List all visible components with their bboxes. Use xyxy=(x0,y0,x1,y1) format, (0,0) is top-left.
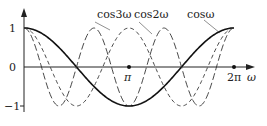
x-label-pi: π xyxy=(123,71,132,84)
x-label-2pi: 2π xyxy=(227,71,241,84)
label-cos1: cosω xyxy=(187,8,214,21)
x-axis-arrow-icon xyxy=(246,64,255,70)
label-cos3: cos3ω xyxy=(97,8,131,21)
leader-cos3 xyxy=(95,22,110,30)
twopi-point xyxy=(232,65,236,69)
label-cos2: cos2ω xyxy=(134,8,168,21)
leader-cos2 xyxy=(139,22,152,34)
y-axis-arrow-icon xyxy=(21,8,27,17)
y-label-neg1: −1 xyxy=(4,100,20,113)
pi-point xyxy=(127,65,131,69)
x-axis-label: ω xyxy=(247,71,256,84)
cosine-chart: 1 0 −1 π 2π ω cos3ω cos2ω cosω xyxy=(0,0,267,126)
y-label-0: 0 xyxy=(9,61,16,74)
leader-cos1 xyxy=(204,20,220,33)
y-label-1: 1 xyxy=(9,22,16,35)
